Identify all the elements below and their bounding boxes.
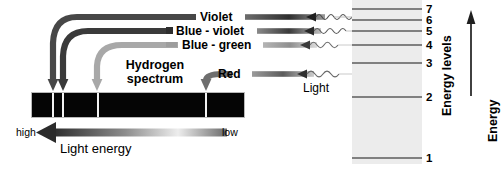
label-blue-green: Blue - green (182, 39, 251, 51)
energy-level-number-1: 1 (426, 153, 432, 165)
caption-energy-axis: Energy (486, 100, 500, 142)
energy-level-number-3: 3 (426, 58, 432, 70)
label-blue-violet: Blue - violet (176, 25, 244, 37)
energy-level-number-5: 5 (426, 26, 432, 38)
energy-level-number-4: 4 (426, 40, 432, 52)
label-energy-high: high (16, 126, 36, 138)
caption-energy-levels: Energy levels (440, 35, 454, 116)
label-red: Red (218, 68, 241, 80)
hydrogen-spectrum-title: Hydrogen spectrum (112, 59, 198, 86)
title-line-2: spectrum (127, 72, 183, 86)
label-light-energy-axis: Light energy (60, 141, 132, 156)
label-violet: Violet (200, 11, 232, 23)
label-energy-low: low (222, 126, 238, 138)
energy-level-number-2: 2 (426, 92, 432, 104)
title-line-1: Hydrogen (126, 58, 184, 72)
label-light: Light (303, 81, 329, 95)
hydrogen-spectrum-diagram: 7 6 5 4 3 2 1 Violet Blue - violet Blue … (0, 0, 501, 171)
